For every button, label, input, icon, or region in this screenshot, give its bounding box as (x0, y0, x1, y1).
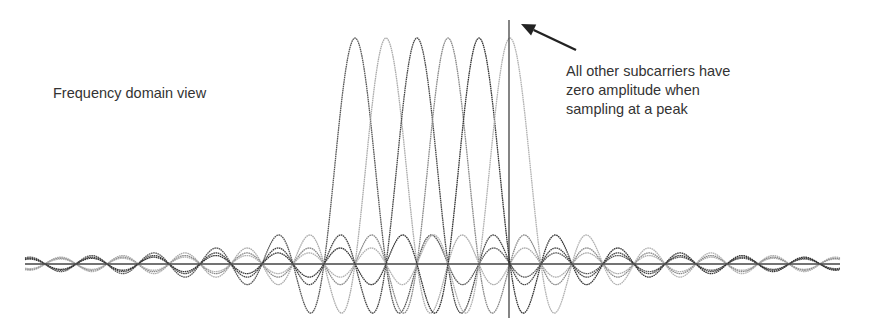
annotation-line-2: zero amplitude when (566, 81, 806, 100)
annotation-arrow (521, 24, 576, 50)
annotation-line-1: All other subcarriers have (566, 62, 806, 81)
view-title: Frequency domain view (53, 84, 206, 103)
frequency-domain-plot (0, 0, 870, 336)
annotation-text: All other subcarriers have zero amplitud… (566, 62, 806, 119)
annotation-line-3: sampling at a peak (566, 100, 806, 119)
